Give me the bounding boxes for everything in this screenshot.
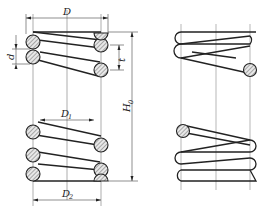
dimension-free-height: H 0 [108, 32, 138, 181]
outside-view [174, 24, 257, 190]
coil-outline [174, 32, 256, 181]
view-guidelines [181, 24, 250, 190]
label-d: d [5, 54, 16, 60]
label-D: D [62, 6, 71, 17]
label-H0-subscript: 0 [127, 100, 135, 104]
label-D1-subscript: 1 [68, 113, 72, 121]
dimension-pitch: t [110, 45, 127, 70]
spring-diagram: D d t H 0 [0, 0, 265, 216]
label-t: t [116, 57, 127, 62]
section-view: D d t H 0 [5, 6, 138, 206]
label-D2-subscript: 2 [68, 193, 73, 201]
